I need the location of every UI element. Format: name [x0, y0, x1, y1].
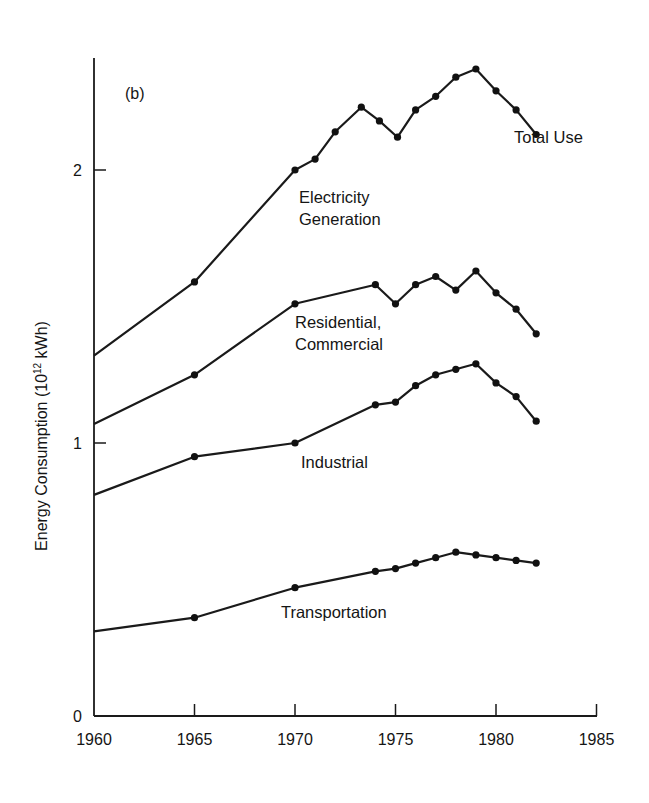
y-tick-label: 0 [73, 708, 82, 725]
data-point-marker [432, 554, 439, 561]
data-point-marker [533, 418, 540, 425]
axes: 196019651970197519801985012 [73, 58, 614, 748]
x-tick-label: 1970 [277, 731, 313, 748]
energy-consumption-chart: 196019651970197519801985012 ElectricityG… [0, 0, 649, 803]
y-axis-label: Energy Consumption (1012 kWh) [32, 321, 50, 551]
data-point-marker [472, 267, 479, 274]
data-point-marker [492, 554, 499, 561]
label-electricity-generation: ElectricityGeneration [299, 188, 381, 228]
data-point-marker [452, 549, 459, 556]
series-line [94, 364, 536, 495]
series-industrial [94, 360, 540, 495]
data-point-marker [412, 281, 419, 288]
annotation-labels: ElectricityGenerationResidential,Commerc… [281, 128, 583, 621]
data-point-marker [332, 128, 339, 135]
data-point-marker [472, 360, 479, 367]
data-point-marker [412, 560, 419, 567]
data-point-marker [513, 557, 520, 564]
x-tick-label: 1980 [478, 731, 514, 748]
data-point-marker [472, 551, 479, 558]
data-point-marker [312, 156, 319, 163]
data-point-marker [372, 281, 379, 288]
x-tick-label: 1965 [177, 731, 213, 748]
data-point-marker [191, 453, 198, 460]
x-tick-label: 1975 [378, 731, 414, 748]
data-point-marker [372, 568, 379, 575]
data-point-marker [452, 287, 459, 294]
data-point-marker [291, 584, 298, 591]
data-point-marker [432, 93, 439, 100]
data-point-marker [492, 379, 499, 386]
data-point-marker [432, 273, 439, 280]
data-point-marker [291, 300, 298, 307]
data-point-marker [291, 439, 298, 446]
x-tick-label: 1985 [579, 731, 615, 748]
data-point-marker [432, 371, 439, 378]
data-point-marker [452, 366, 459, 373]
data-point-marker [513, 106, 520, 113]
data-point-marker [358, 104, 365, 111]
data-point-marker [492, 289, 499, 296]
data-point-marker [376, 117, 383, 124]
label-total-use: Total Use [514, 128, 583, 146]
data-point-marker [412, 106, 419, 113]
data-point-marker [372, 401, 379, 408]
y-tick-label: 2 [73, 162, 82, 179]
data-point-marker [291, 166, 298, 173]
data-point-marker [412, 382, 419, 389]
data-point-marker [513, 306, 520, 313]
label-residential-commercial: Residential,Commercial [295, 313, 383, 353]
y-tick-label: 1 [73, 435, 82, 452]
data-point-marker [513, 393, 520, 400]
data-point-marker [394, 134, 401, 141]
data-point-marker [392, 399, 399, 406]
data-point-marker [533, 330, 540, 337]
data-point-marker [452, 74, 459, 81]
data-point-marker [191, 278, 198, 285]
x-tick-label: 1960 [76, 731, 112, 748]
data-point-marker [533, 560, 540, 567]
label-transportation: Transportation [281, 603, 387, 621]
panel-label: (b) [125, 85, 145, 102]
data-point-marker [492, 87, 499, 94]
data-point-marker [392, 565, 399, 572]
data-point-marker [191, 371, 198, 378]
data-point-marker [392, 300, 399, 307]
data-point-marker [191, 614, 198, 621]
label-industrial: Industrial [301, 453, 368, 471]
data-point-marker [472, 65, 479, 72]
